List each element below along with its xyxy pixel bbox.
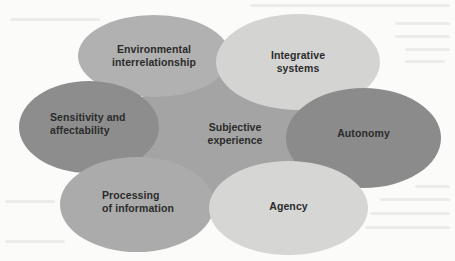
background-text-line: [395, 35, 450, 38]
background-text-line: [395, 22, 450, 25]
node-label: Sensitivity and affectability: [19, 111, 126, 137]
node-label: Autonomy: [337, 127, 390, 140]
node-label: Agency: [269, 200, 308, 213]
node-label: Processing of information: [60, 189, 174, 215]
background-text-line: [5, 200, 55, 203]
background-text-line: [5, 240, 65, 243]
center-node-label: Subjective experience: [190, 121, 280, 147]
node-label: Environmental interrelationship: [112, 43, 196, 69]
diagram-canvas: Environmental interrelationship Integrat…: [0, 0, 455, 261]
node-agency: Agency: [209, 161, 368, 255]
background-text-line: [405, 60, 445, 63]
background-text-line: [10, 18, 100, 21]
background-text-line: [250, 4, 450, 7]
node-processing-of-information: Processing of information: [60, 157, 214, 252]
background-text-line: [380, 198, 450, 201]
node-label: Integrative systems: [271, 49, 325, 75]
background-text-line: [405, 48, 450, 51]
background-text-line: [415, 185, 450, 188]
background-text-line: [370, 212, 450, 215]
background-text-line: [365, 226, 450, 229]
